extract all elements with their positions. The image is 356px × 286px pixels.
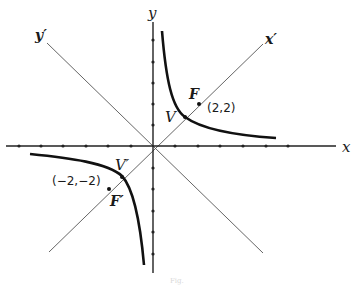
hyperbola-figure: y x x′ y′ V F (2,2) V′ F′ (−2,−2) Fig. (0, 0, 356, 286)
vertex-point (183, 115, 187, 119)
vertex-prime-label: V′ (115, 156, 130, 174)
focus-prime-label: F′ (109, 193, 124, 209)
focus-coordinate: (2,2) (207, 101, 235, 115)
focus-point (197, 102, 201, 106)
vertex-prime-point (120, 175, 124, 179)
y-axis-label: y (147, 4, 157, 22)
focus-prime-coordinate: (−2,−2) (52, 174, 101, 188)
y-prime-axis (47, 43, 263, 253)
x-axis-label: x (342, 138, 351, 156)
x-prime-axis (49, 44, 263, 252)
figure-caption: Fig. (170, 277, 184, 285)
y-prime-axis-label: y′ (34, 27, 47, 43)
focus-label: F (188, 86, 200, 102)
vertex-label: V (165, 108, 178, 126)
x-prime-axis-label: x′ (264, 31, 277, 47)
focus-prime-point (107, 187, 111, 191)
hyperbola-branch-upper (162, 31, 276, 138)
